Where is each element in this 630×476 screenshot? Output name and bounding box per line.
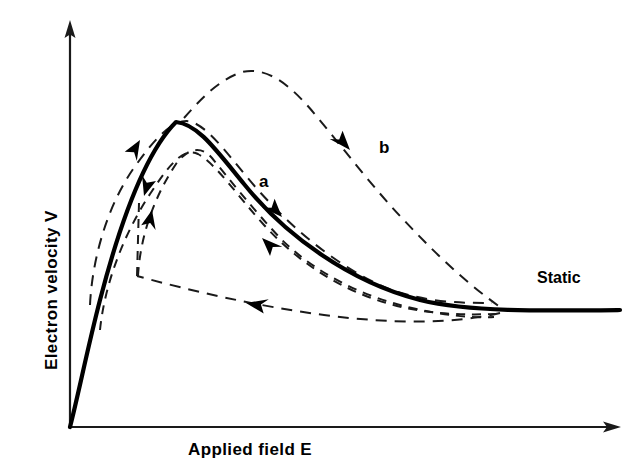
return-riser-curve [137, 203, 139, 276]
direction-arrows-group [124, 129, 356, 314]
static-curve-label: Static [537, 269, 581, 287]
dynamic-loops-group [90, 71, 500, 330]
figure-canvas: Electron velocity V Applied field E Stat… [0, 0, 630, 476]
y-axis-label: Electron velocity V [42, 40, 62, 370]
loop-b-curve [184, 71, 500, 307]
axes-group [65, 20, 622, 433]
loop-b-label: b [379, 138, 389, 158]
arrow-loop-b-icon [330, 129, 356, 155]
arrow-return-riser-icon [141, 209, 159, 230]
loop-a-overshoot-curve [138, 150, 494, 317]
arrow-loop-a-reverse-icon [257, 233, 283, 258]
velocity-field-diagram [0, 0, 630, 476]
x-axis-label: Applied field E [188, 440, 312, 460]
loop-a-label: a [259, 172, 268, 192]
